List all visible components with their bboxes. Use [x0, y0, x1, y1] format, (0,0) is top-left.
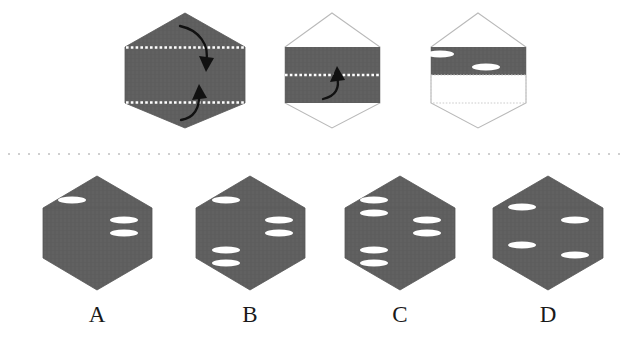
puzzle-canvas: A B C — [0, 0, 632, 344]
punched-hole — [472, 63, 500, 70]
punched-hole — [360, 246, 388, 253]
punched-hole — [58, 196, 86, 203]
punched-hole — [360, 196, 388, 203]
option-b-label: B — [242, 302, 257, 327]
punched-hole — [413, 216, 441, 223]
punched-hole — [413, 229, 441, 236]
puzzle-figure: A B C — [0, 0, 632, 344]
punched-hole — [212, 196, 240, 203]
punched-hole — [561, 216, 589, 223]
punched-hole — [360, 209, 388, 216]
option-a-label: A — [89, 302, 106, 327]
option-d-label: D — [540, 302, 557, 327]
punched-hole — [508, 203, 536, 210]
punched-hole — [360, 259, 388, 266]
punched-hole — [508, 241, 536, 248]
punched-hole — [265, 229, 293, 236]
punched-hole — [212, 246, 240, 253]
punched-hole — [561, 251, 589, 258]
punched-hole — [212, 259, 240, 266]
option-c-label: C — [392, 302, 407, 327]
punched-hole — [265, 216, 293, 223]
punched-hole — [110, 229, 138, 236]
punched-hole — [426, 50, 454, 57]
punched-hole — [110, 216, 138, 223]
